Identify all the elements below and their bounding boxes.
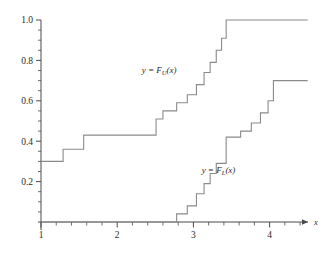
x-tick-label: 1: [39, 230, 44, 240]
step-function-chart: 0.20.40.60.81.0 1234 y = FU(x) y = FL(x)…: [0, 0, 332, 254]
y-tick-label: 0.4: [21, 137, 33, 147]
upper-curve-annotation: y = FU(x): [141, 65, 177, 77]
y-tick-label: 0.8: [21, 56, 33, 66]
lower-curve-annotation: y = FL(x): [201, 165, 236, 177]
x-tick-label: 2: [115, 230, 120, 240]
y-tick-label: 0.6: [21, 96, 33, 106]
x-tick-label: 3: [191, 230, 196, 240]
lower-annotation-main: y = F: [201, 165, 223, 175]
chart-background: [0, 0, 332, 254]
x-tick-label: 4: [267, 230, 272, 240]
lower-annotation-tail: (x): [225, 165, 235, 175]
x-axis-name-label: x: [313, 217, 318, 227]
upper-annotation-main: y = F: [141, 65, 163, 75]
upper-annotation-tail: (x): [167, 65, 177, 75]
y-tick-label: 1.0: [21, 15, 33, 25]
chart-canvas: 0.20.40.60.81.0 1234 y = FU(x) y = FL(x)…: [0, 0, 332, 254]
y-tick-label: 0.2: [21, 177, 33, 187]
